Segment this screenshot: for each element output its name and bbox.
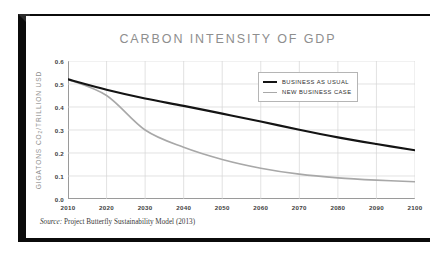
y-tick-label: 0.1 — [55, 173, 64, 180]
source-text: Project Butterfly Sustainability Model (… — [64, 218, 195, 226]
y-tick-label: 0.3 — [55, 127, 64, 134]
series-lines — [68, 61, 415, 199]
series-line-new-business-case — [68, 79, 415, 181]
y-tick-label: 0.4 — [55, 104, 64, 111]
y-tick-label: 0.6 — [55, 58, 64, 65]
y-tick-label: 0.0 — [55, 196, 64, 203]
legend-line-icon-business-as-usual — [263, 81, 277, 83]
plot-region: 0.00.10.20.30.40.50.6 201020202030204020… — [68, 61, 415, 199]
x-tick-label: 2070 — [292, 204, 307, 211]
y-axis-label: GIGATONS CO2/TRILLION USD — [35, 71, 42, 189]
x-tick-label: 2050 — [215, 204, 230, 211]
chart-legend: BUSINESS AS USUAL NEW BUSINESS CASE — [258, 72, 358, 102]
legend-label-new-business-case: NEW BUSINESS CASE — [282, 89, 352, 95]
legend-item-business-as-usual: BUSINESS AS USUAL — [263, 77, 352, 87]
legend-label-business-as-usual: BUSINESS AS USUAL — [282, 79, 349, 85]
chart-figure: CARBON INTENSITY OF GDP 0.00.10.20.30.40… — [0, 0, 446, 258]
chart-title: CARBON INTENSITY OF GDP — [26, 32, 430, 46]
y-tick-label: 0.2 — [55, 150, 64, 157]
source-note: Source:Project Butterfly Sustainability … — [40, 218, 195, 226]
x-tick-label: 2040 — [176, 204, 191, 211]
series-line-business-as-usual — [68, 79, 415, 150]
y-axis-label-pre: GIGATONS CO — [35, 133, 42, 189]
x-tick-label: 2100 — [408, 204, 423, 211]
x-tick-label: 2090 — [369, 204, 384, 211]
y-tick-label: 0.5 — [55, 81, 64, 88]
x-tick-label: 2020 — [99, 204, 114, 211]
legend-line-icon-new-business-case — [263, 92, 277, 93]
legend-item-new-business-case: NEW BUSINESS CASE — [263, 87, 352, 97]
y-axis-label-sub: 2 — [37, 130, 43, 134]
source-label: Source: — [40, 218, 62, 226]
y-axis-label-post: /TRILLION USD — [35, 71, 42, 130]
x-tick-label: 2080 — [330, 204, 345, 211]
x-tick-label: 2010 — [61, 204, 76, 211]
x-tick-label: 2030 — [138, 204, 153, 211]
chart-canvas: CARBON INTENSITY OF GDP 0.00.10.20.30.40… — [26, 16, 430, 238]
x-tick-label: 2060 — [253, 204, 268, 211]
